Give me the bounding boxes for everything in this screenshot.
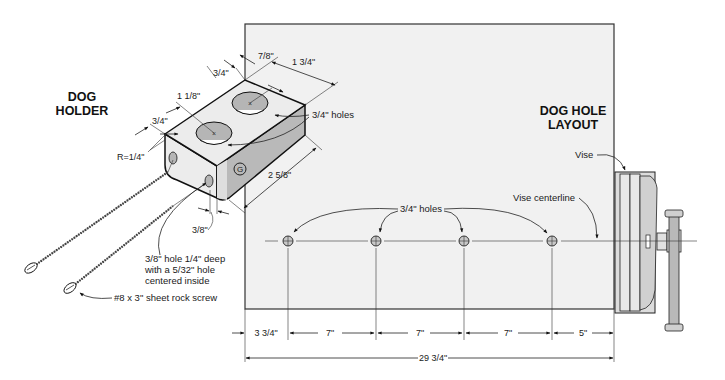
spacing-2: 7" <box>326 328 334 338</box>
dog-holder-title-line2: HOLDER <box>56 104 109 118</box>
screw-hole-note-3: centered inside <box>145 275 209 286</box>
dim-screw-hole-offset: 3/8" <box>192 225 208 235</box>
dog-holder-title: DOG <box>68 90 96 104</box>
vise-centerline-label: Vise centerline <box>513 192 575 203</box>
dog-hole-layout-title: DOG HOLE <box>540 104 607 118</box>
dim-width: 1 3/4" <box>292 57 315 67</box>
screw-hole-note-1: 3/8" hole 1/4" deep <box>145 253 225 264</box>
dog-hole-4 <box>547 236 557 246</box>
screw-label: #8 x 3" sheet rock screw <box>114 292 217 303</box>
screw-hole-note-2: with a 5/32" hole <box>144 264 215 275</box>
dog-hole-layout-title-line2: LAYOUT <box>548 118 599 132</box>
dog-hole-2 <box>371 236 381 246</box>
spacing-5: 5" <box>579 328 587 338</box>
vise <box>615 172 683 331</box>
total-length: 29 3/4" <box>419 353 447 363</box>
dim-radius: R=1/4" <box>117 152 144 162</box>
svg-text:×: × <box>248 100 252 107</box>
spacing-3: 7" <box>416 328 424 338</box>
svg-text:G: G <box>237 165 243 174</box>
diagram-canvas: DOG HOLDER DOG HOLE LAYOUT Vise Vise cen… <box>0 0 725 380</box>
holder-holes-label: 3/4" holes <box>312 109 354 120</box>
dog-hole-3 <box>459 236 469 246</box>
svg-text:×: × <box>212 130 216 137</box>
spacing-1: 3 3/4" <box>254 328 277 338</box>
vise-label: Vise <box>575 149 593 160</box>
dim-side-edge: 3/4" <box>152 116 168 126</box>
spacing-4: 7" <box>504 328 512 338</box>
screw-leader <box>80 293 112 298</box>
screw-hole-leader <box>158 183 206 255</box>
dim-hole-spacing: 1 1/8" <box>177 91 200 101</box>
dim-length: 2 5/8" <box>268 170 291 180</box>
dim-hole-offset: 7/8" <box>258 51 274 61</box>
dim-top-edge: 3/4" <box>213 68 229 78</box>
dog-hole-1 <box>283 236 293 246</box>
layout-holes-label: 3/4" holes <box>400 203 442 214</box>
